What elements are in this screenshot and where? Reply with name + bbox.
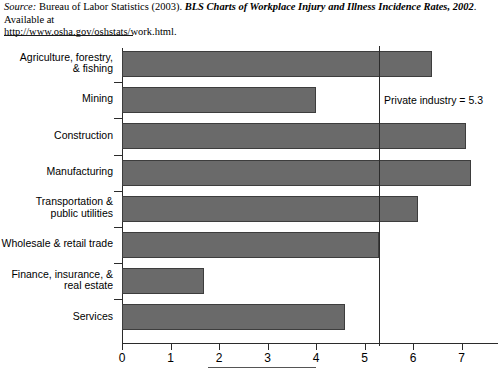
x-axis-tick-label: 7 [450,351,474,365]
bar-6 [122,232,379,258]
category-label-3: Construction [0,130,118,142]
bar-fill [122,232,379,258]
y-axis-tick [114,299,122,300]
bar-5 [122,196,418,222]
x-axis-line [122,343,498,344]
x-axis-tick-label: 5 [353,351,377,365]
bar-8 [122,304,345,330]
x-axis-tick [462,343,463,350]
bar-fill [122,123,466,149]
source-note: Source: Bureau of Labor Statistics (2003… [4,1,497,39]
source-title: BLS Charts of Workplace Injury and Illne… [185,1,474,12]
source-agency: Bureau of Labor Statistics (2003). [36,1,184,12]
bar-fill [122,51,432,77]
bottom-divider-rule [208,367,316,368]
reference-line-private-industry [379,46,380,346]
bar-fill [122,196,418,222]
category-label-4: Manufacturing [0,166,118,178]
category-label-2: Mining [0,93,118,105]
x-axis-tick-label: 2 [207,351,231,365]
bar-fill [122,87,316,113]
category-label-line: & fishing [0,63,113,75]
category-label-1: Agriculture, forestry,& fishing [0,52,118,75]
y-axis-tick [114,155,122,156]
y-axis-tick [114,82,122,83]
category-label-line: Manufacturing [0,166,113,178]
x-axis-tick [268,343,269,350]
x-axis-tick-label: 0 [110,351,134,365]
category-label-line: Construction [0,130,113,142]
bar-2 [122,87,316,113]
y-axis-tick [114,191,122,192]
bar-fill [122,160,471,186]
reference-line-annotation: Private industry = 5.3 [384,94,483,106]
y-axis-tick [114,118,122,119]
bar-chart: Agriculture, forestry,& fishingMiningCon… [0,40,501,370]
y-axis-tick [114,263,122,264]
category-label-line: real estate [0,280,113,292]
bar-fill [122,304,345,330]
bar-fill [122,268,204,294]
x-axis-tick-label: 3 [256,351,280,365]
source-label: Source: [4,1,36,12]
bar-1 [122,51,432,77]
x-axis-tick-label: 6 [401,351,425,365]
x-axis-tick [316,343,317,350]
source-divider-rule [4,35,133,36]
x-axis-tick [219,343,220,350]
category-label-line: public utilities [0,208,113,220]
category-label-line: Wholesale & retail trade [0,238,113,250]
category-label-7: Finance, insurance, &real estate [0,269,118,292]
category-label-line: Mining [0,93,113,105]
y-axis-tick [114,227,122,228]
x-axis-tick-label: 1 [159,351,183,365]
x-axis-tick [171,343,172,350]
x-axis-tick-label: 4 [304,351,328,365]
bar-3 [122,123,466,149]
category-label-6: Wholesale & retail trade [0,238,118,250]
bar-7 [122,268,204,294]
bar-4 [122,160,471,186]
category-label-8: Services [0,311,118,323]
x-axis-tick [413,343,414,350]
category-label-5: Transportation &public utilities [0,196,118,219]
x-axis-tick [365,343,366,350]
category-label-line: Services [0,311,113,323]
x-axis-tick [122,343,123,350]
